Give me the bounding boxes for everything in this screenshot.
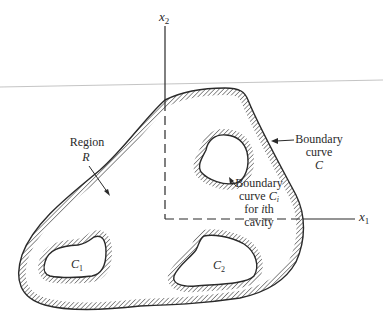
region-variable-label: R <box>81 150 90 164</box>
boundary-ci-label: Boundary <box>235 176 282 190</box>
boundary-c-variable: C <box>315 158 324 172</box>
horizontal-rule-line <box>0 80 383 87</box>
region-with-cavities-diagram: x2 x1 Region R Boundary curve C Boundary… <box>0 0 383 330</box>
boundary-ci-label-line3: for ith <box>244 202 274 216</box>
boundary-c-label-line2: curve <box>306 145 333 159</box>
boundary-ci-label-line4: cavity <box>244 215 273 229</box>
boundary-c-arrow <box>271 138 294 144</box>
region-label: Region <box>70 135 105 149</box>
x1-axis-label: x1 <box>358 209 369 226</box>
x2-axis-label: x2 <box>158 9 169 26</box>
boundary-c-label: Boundary <box>295 132 342 146</box>
